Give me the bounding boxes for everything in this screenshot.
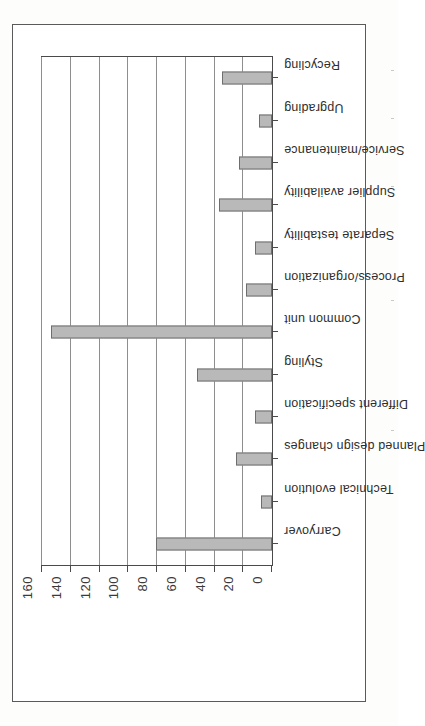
bar-slot: Upgrading	[42, 99, 272, 141]
category-label: Technical evolution	[284, 482, 393, 496]
x-axis-tick	[272, 543, 278, 544]
bar[interactable]	[239, 156, 272, 169]
category-label: Styling	[284, 355, 323, 369]
y-axis-tick	[41, 565, 42, 572]
bar-slot: Styling	[42, 353, 272, 395]
bar[interactable]	[51, 326, 272, 339]
y-axis-tick-label: 0	[250, 576, 265, 584]
y-axis-tick-label: 100	[106, 576, 121, 599]
category-label: Different specification	[284, 397, 408, 411]
bar[interactable]	[259, 114, 272, 127]
category-label: Planned design changes	[284, 439, 425, 453]
page-edge-mark	[391, 70, 394, 71]
category-label: Common unit	[284, 312, 361, 326]
bar-slot: Supplier availability	[42, 184, 272, 226]
y-axis-tick	[156, 565, 157, 572]
y-axis-tick	[214, 565, 215, 572]
bar[interactable]	[246, 283, 272, 296]
y-axis-tick-label: 140	[48, 576, 63, 599]
y-axis-tick-label: 40	[192, 576, 207, 591]
x-axis-tick	[272, 162, 278, 163]
category-label: Supplier availability	[284, 185, 395, 199]
category-label: Process/organization	[284, 270, 405, 284]
bar-slot: Technical evolution	[42, 480, 272, 522]
bar[interactable]	[197, 368, 272, 381]
bar-slot: Carryover	[42, 523, 272, 565]
bar[interactable]	[219, 199, 272, 212]
page-edge-mark	[391, 300, 394, 301]
y-axis-tick	[99, 565, 100, 572]
category-label: Separate testability	[284, 228, 394, 242]
x-axis-tick	[272, 289, 278, 290]
bar[interactable]	[261, 495, 273, 508]
bar-slot: Recycling	[42, 57, 272, 99]
category-label: Carryover	[284, 524, 341, 538]
plot-area: 020406080100120140160 CarryoverTechnical…	[41, 56, 273, 566]
x-axis-tick	[272, 120, 278, 121]
page-edge-mark	[391, 430, 394, 431]
y-axis-tick-label: 80	[135, 576, 150, 591]
bar[interactable]	[222, 72, 272, 85]
y-axis-tick-label: 60	[163, 576, 178, 591]
bars-container: CarryoverTechnical evolutionPlanned desi…	[42, 57, 272, 565]
x-axis-tick	[272, 501, 278, 502]
bar-slot: Separate testability	[42, 226, 272, 268]
bar[interactable]	[236, 453, 272, 466]
y-axis-tick	[127, 565, 128, 572]
x-axis-tick	[272, 331, 278, 332]
y-axis-tick	[185, 565, 186, 572]
bar-slot: Planned design changes	[42, 438, 272, 480]
bar-slot: Common unit	[42, 311, 272, 353]
x-axis-tick	[272, 374, 278, 375]
bar[interactable]	[255, 241, 272, 254]
bar-chart: 020406080100120140160 CarryoverTechnical…	[33, 42, 365, 684]
category-label: Service/maintenance	[284, 143, 405, 157]
bar[interactable]	[255, 410, 272, 423]
chart-rotation-wrapper: 020406080100120140160 CarryoverTechnical…	[33, 42, 365, 684]
category-label: Upgrading	[284, 101, 343, 115]
category-label: Recycling	[284, 58, 340, 72]
bar-slot: Process/organization	[42, 269, 272, 311]
bar[interactable]	[156, 537, 272, 550]
x-axis-tick	[272, 204, 278, 205]
x-axis-tick	[272, 458, 278, 459]
y-axis-tick	[70, 565, 71, 572]
y-axis-tick	[242, 565, 243, 572]
page-edge-mark	[391, 118, 394, 119]
x-axis-tick	[272, 416, 278, 417]
x-axis-tick	[272, 77, 278, 78]
y-axis-tick-label: 160	[20, 576, 35, 599]
x-axis-tick	[272, 247, 278, 248]
y-axis-tick-label: 20	[221, 576, 236, 591]
y-axis-tick-label: 120	[77, 576, 92, 599]
bar-slot: Service/maintenance	[42, 142, 272, 184]
bar-slot: Different specification	[42, 396, 272, 438]
y-axis-tick	[271, 565, 272, 572]
